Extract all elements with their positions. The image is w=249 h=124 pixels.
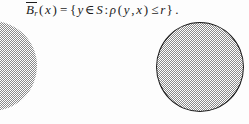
arg-close-paren: ) [51,2,59,17]
such-that-colon: : [103,2,110,17]
outlined-shaded-disk [156,22,244,112]
figure-page: Br(x)={y∈S:ρ(y,x)≤r}. [0,0,249,124]
set-open-brace: { [69,2,77,17]
set-element-variable: y [78,2,84,17]
element-of-symbol: ∈ [84,2,97,17]
equals-sign: = [59,2,70,17]
metric-close-paren: ) [142,2,150,17]
metric-first-arg: y [124,2,130,17]
set-close-brace: } [165,2,173,17]
left-disk-clip-region [0,0,40,124]
closed-ball-formula: Br(x)={y∈S:ρ(y,x)≤r}. [26,1,180,20]
clipped-shaded-disk [0,21,37,111]
metric-open-paren: ( [116,2,124,17]
less-than-or-equal-sign: ≤ [150,2,160,17]
sentence-period: . [174,2,180,17]
